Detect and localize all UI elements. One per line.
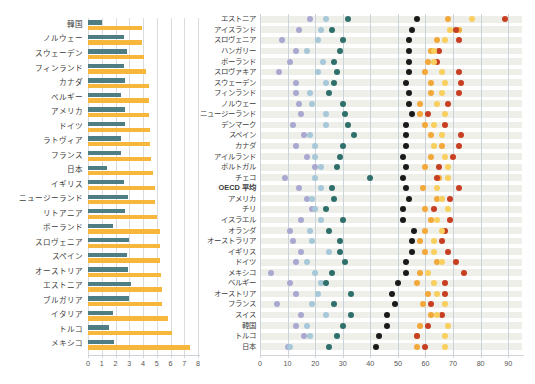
- bar-group: [88, 192, 198, 207]
- dot-category-label: ベルギー: [228, 279, 256, 286]
- dot-x-tick-mark: [425, 355, 426, 358]
- data-point-s6-red: [456, 69, 462, 75]
- bar-group: [88, 76, 198, 91]
- data-point-s7-light-orange: [445, 206, 451, 212]
- bar-group: [88, 250, 198, 265]
- bar-group: [88, 33, 198, 48]
- data-point-s1-light-purple: [296, 101, 302, 107]
- data-point-s3-teal: [329, 185, 335, 191]
- data-point-s4-black: [406, 101, 412, 107]
- data-point-s7-light-orange: [442, 333, 448, 339]
- bar-series-amber: [88, 26, 142, 30]
- data-point-s1-light-purple: [296, 185, 302, 191]
- data-point-s3-teal: [340, 101, 346, 107]
- bar-series-amber: [88, 287, 162, 291]
- data-point-s3-teal: [329, 270, 335, 276]
- dot-category-label: フランス: [228, 300, 256, 307]
- bar-series-teal: [88, 267, 128, 271]
- data-point-s6-red: [425, 323, 431, 329]
- data-point-s3-teal: [340, 143, 346, 149]
- dot-x-tick-label: 20: [311, 359, 319, 368]
- bar-series-teal: [88, 151, 121, 155]
- data-point-s7-light-orange: [439, 196, 445, 202]
- data-point-s4-black: [406, 48, 412, 54]
- dot-row-band: [260, 259, 522, 266]
- data-point-s7-light-orange: [434, 185, 440, 191]
- bar-group: [88, 91, 198, 106]
- data-point-s4-black: [406, 69, 412, 75]
- data-point-s5-orange: [417, 270, 423, 276]
- data-point-s1-light-purple: [293, 80, 299, 86]
- dot-x-tick-mark: [398, 355, 399, 358]
- bar-series-amber: [88, 55, 144, 59]
- data-point-s4-black: [409, 249, 415, 255]
- dot-category-label: アイルランド: [214, 153, 256, 160]
- bar-x-tick-label: 2: [114, 359, 118, 368]
- data-point-s1-light-purple: [268, 270, 274, 276]
- data-point-s3-teal: [348, 312, 354, 318]
- data-point-s1-light-purple: [287, 228, 293, 234]
- bar-series-teal: [88, 325, 109, 329]
- bar-category-label: トルコ: [59, 326, 83, 334]
- bar-category-label: 日本: [67, 166, 83, 174]
- dot-row-band: [260, 143, 522, 150]
- dot-row-band: [260, 132, 522, 139]
- bar-x-tick-label: 6: [169, 359, 173, 368]
- dot-category-label: 日本: [242, 343, 256, 350]
- bar-series-teal: [88, 93, 121, 97]
- gridline: [198, 18, 199, 356]
- data-point-s4-black: [384, 312, 390, 318]
- bar-group: [88, 207, 198, 222]
- gridline: [508, 14, 509, 356]
- bar-category-label: カナダ: [59, 79, 83, 87]
- dot-x-tick-mark: [260, 355, 261, 358]
- dot-category-label: スペイン: [229, 131, 256, 138]
- data-point-s5-orange: [428, 80, 434, 86]
- data-point-s3-teal: [326, 344, 332, 350]
- bar-series-amber: [88, 244, 160, 248]
- data-point-s7-light-orange: [442, 154, 448, 160]
- data-point-s5-orange: [417, 101, 423, 107]
- bar-series-amber: [88, 200, 155, 204]
- data-point-s2-light-blue: [307, 228, 313, 234]
- dot-category-label: イギリス: [228, 248, 256, 255]
- bar-series-amber: [88, 345, 190, 349]
- data-point-s5-orange: [414, 344, 420, 350]
- dot-row-band: [260, 48, 522, 55]
- data-point-s2-light-blue: [304, 48, 310, 54]
- data-point-s3-teal: [340, 217, 346, 223]
- data-point-s7-light-orange: [434, 291, 440, 297]
- dot-x-tick-mark: [370, 355, 371, 358]
- bar-x-tick-mark: [102, 355, 103, 358]
- dot-row-band: [260, 153, 522, 160]
- data-point-s7-light-orange: [431, 48, 437, 54]
- data-point-s4-black: [406, 196, 412, 202]
- data-point-s6-red: [461, 270, 467, 276]
- bar-category-label: フランス: [51, 152, 83, 160]
- dual-chart-figure: 韓国ノルウェースウェーデンフィンランドカナダベルギーアメリカドイツラトヴィアフラ…: [0, 0, 535, 384]
- data-point-s7-light-orange: [431, 143, 437, 149]
- bar-series-amber: [88, 258, 160, 262]
- bar-series-teal: [88, 136, 121, 140]
- data-point-s5-orange: [445, 16, 451, 22]
- data-point-s2-light-blue: [326, 249, 332, 255]
- gridline: [370, 14, 371, 356]
- dot-category-label: ハンガリー: [221, 47, 256, 54]
- data-point-s3-teal: [337, 48, 343, 54]
- data-point-s6-red: [453, 259, 459, 265]
- dot-x-tick-mark: [288, 355, 289, 358]
- bar-group: [88, 178, 198, 193]
- bar-series-teal: [88, 238, 129, 242]
- gridline: [398, 14, 399, 356]
- bar-series-amber: [88, 84, 149, 88]
- data-point-s3-teal: [329, 27, 335, 33]
- gridline: [453, 14, 454, 356]
- bar-x-tick-mark: [198, 355, 199, 358]
- dot-row-band: [260, 280, 522, 287]
- data-point-s5-orange: [420, 185, 426, 191]
- dot-x-tick-label: 50: [394, 359, 402, 368]
- data-point-s7-light-orange: [439, 228, 445, 234]
- dot-x-tick-label: 90: [504, 359, 512, 368]
- bar-category-label: イギリス: [51, 181, 83, 189]
- bar-x-tick-label: 0: [86, 359, 90, 368]
